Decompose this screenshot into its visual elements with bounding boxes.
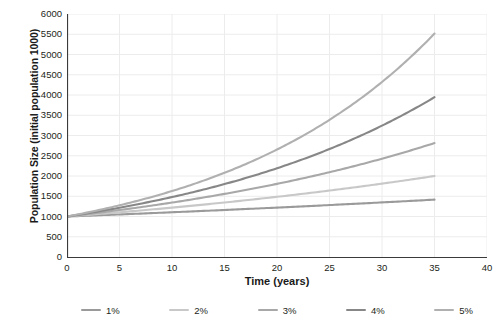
plot-area	[67, 14, 487, 257]
y-tick-label: 2000	[22, 171, 62, 181]
y-tick-label: 6000	[22, 9, 62, 19]
y-axis-tick-labels: 0500100015002000250030003500400045005000…	[18, 0, 62, 270]
x-tick-label: 5	[105, 262, 135, 273]
x-tick-label: 35	[420, 262, 450, 273]
x-tick-label: 40	[472, 262, 502, 273]
y-tick-label: 1500	[22, 191, 62, 201]
chart-canvas	[67, 14, 487, 258]
x-tick-label: 30	[367, 262, 397, 273]
legend-swatch-icon	[169, 309, 189, 312]
y-tick-label: 5000	[22, 50, 62, 60]
legend-label: 1%	[106, 305, 120, 316]
chart-legend: 1%2%3%4%5%	[67, 300, 487, 320]
x-axis-title: Time (years)	[67, 275, 487, 287]
legend-swatch-icon	[434, 309, 454, 312]
legend-item-5pct[interactable]: 5%	[434, 305, 473, 316]
x-tick-label: 20	[262, 262, 292, 273]
legend-label: 3%	[283, 305, 297, 316]
y-tick-label: 5500	[22, 29, 62, 39]
x-tick-label: 15	[210, 262, 240, 273]
legend-swatch-icon	[346, 309, 366, 312]
legend-item-1pct[interactable]: 1%	[81, 305, 120, 316]
legend-item-2pct[interactable]: 2%	[169, 305, 208, 316]
y-tick-label: 2500	[22, 151, 62, 161]
y-tick-label: 500	[22, 232, 62, 242]
y-tick-label: 4500	[22, 70, 62, 80]
legend-swatch-icon	[258, 309, 278, 312]
legend-label: 5%	[459, 305, 473, 316]
population-growth-chart: Population Size (initial population 1000…	[0, 0, 502, 334]
legend-label: 4%	[371, 305, 385, 316]
x-tick-label: 25	[315, 262, 345, 273]
legend-swatch-icon	[81, 309, 101, 312]
legend-item-4pct[interactable]: 4%	[346, 305, 385, 316]
y-tick-label: 4000	[22, 90, 62, 100]
y-tick-label: 0	[22, 252, 62, 262]
y-tick-label: 3500	[22, 110, 62, 120]
x-tick-label: 10	[157, 262, 187, 273]
legend-item-3pct[interactable]: 3%	[258, 305, 297, 316]
y-tick-label: 1000	[22, 212, 62, 222]
x-tick-label: 0	[52, 262, 82, 273]
y-tick-label: 3000	[22, 131, 62, 141]
legend-label: 2%	[194, 305, 208, 316]
